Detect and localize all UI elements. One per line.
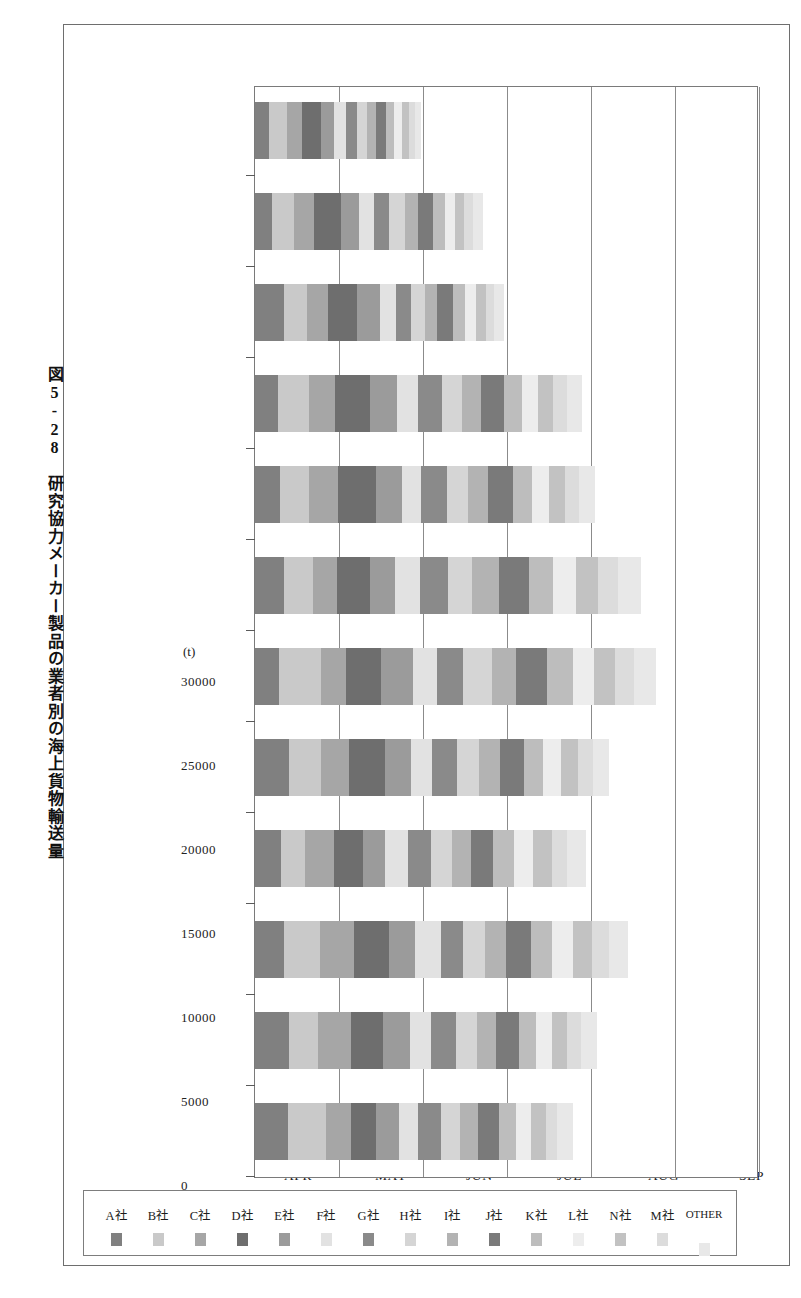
bar-segment-L社[interactable] <box>514 830 533 886</box>
legend-item-G社[interactable]: G社 <box>348 1200 388 1247</box>
bar-segment-D社[interactable] <box>354 921 389 977</box>
bar-segment-B社[interactable] <box>284 284 308 340</box>
bar-segment-M社[interactable] <box>464 193 472 249</box>
bar-segment-A社[interactable] <box>255 375 278 431</box>
bar-segment-H社[interactable] <box>447 466 469 522</box>
bar-segment-E社[interactable] <box>357 284 380 340</box>
bar-segment-B社[interactable] <box>269 102 287 158</box>
bar-segment-K社[interactable] <box>499 1103 516 1159</box>
bar-segment-E社[interactable] <box>321 102 334 158</box>
bar-segment-K社[interactable] <box>386 102 394 158</box>
bar-nov[interactable] <box>255 466 595 522</box>
bar-segment-M社[interactable] <box>592 921 609 977</box>
bar-segment-B社[interactable] <box>281 830 305 886</box>
bar-segment-F社[interactable] <box>395 557 420 613</box>
bar-segment-G社[interactable] <box>418 375 442 431</box>
bar-segment-J社[interactable] <box>499 557 529 613</box>
bar-segment-J社[interactable] <box>437 284 453 340</box>
bar-segment-M社[interactable] <box>546 1103 558 1159</box>
bar-segment-J社[interactable] <box>488 466 513 522</box>
legend-item-F社[interactable]: F社 <box>306 1200 346 1247</box>
bar-segment-C社[interactable] <box>320 921 354 977</box>
bar-segment-F社[interactable] <box>415 921 441 977</box>
bar-dec[interactable] <box>255 375 582 431</box>
bar-segment-M社[interactable] <box>553 375 566 431</box>
bar-segment-A社[interactable] <box>255 557 284 613</box>
bar-segment-C社[interactable] <box>287 102 302 158</box>
bar-segment-J社[interactable] <box>481 375 504 431</box>
bar-segment-C社[interactable] <box>307 284 328 340</box>
bar-segment-I社[interactable] <box>462 375 480 431</box>
bar-segment-M社[interactable] <box>567 1012 580 1068</box>
bar-segment-C社[interactable] <box>326 1103 350 1159</box>
bar-segment-A社[interactable] <box>255 830 281 886</box>
bar-segment-F社[interactable] <box>411 739 432 795</box>
bar-segment-N社[interactable] <box>576 557 598 613</box>
bar-segment-OTHER[interactable] <box>494 284 504 340</box>
bar-segment-K社[interactable] <box>513 466 532 522</box>
bar-segment-E社[interactable] <box>370 375 397 431</box>
bar-segment-I社[interactable] <box>367 102 376 158</box>
bar-segment-H社[interactable] <box>357 102 367 158</box>
bar-segment-J社[interactable] <box>376 102 386 158</box>
bar-segment-A社[interactable] <box>255 739 289 795</box>
legend-item-I社[interactable]: I社 <box>432 1200 472 1247</box>
bar-segment-I社[interactable] <box>405 193 418 249</box>
bar-segment-N社[interactable] <box>549 466 565 522</box>
bar-jul[interactable] <box>255 830 586 886</box>
bar-segment-D社[interactable] <box>302 102 320 158</box>
bar-segment-C社[interactable] <box>309 375 335 431</box>
bar-segment-F社[interactable] <box>413 648 437 704</box>
legend-item-N社[interactable]: N社 <box>600 1200 640 1247</box>
bar-sep[interactable] <box>255 648 656 704</box>
bar-segment-G社[interactable] <box>346 102 357 158</box>
bar-segment-H社[interactable] <box>463 921 485 977</box>
bar-segment-M社[interactable] <box>486 284 494 340</box>
bar-segment-N社[interactable] <box>573 921 592 977</box>
bar-segment-J社[interactable] <box>516 648 547 704</box>
legend-item-L社[interactable]: L社 <box>558 1200 598 1247</box>
bar-segment-L社[interactable] <box>532 466 549 522</box>
legend-item-E社[interactable]: E社 <box>264 1200 304 1247</box>
bar-segment-C社[interactable] <box>309 466 338 522</box>
bar-segment-N社[interactable] <box>476 284 486 340</box>
bar-segment-E社[interactable] <box>383 1012 411 1068</box>
bar-segment-I社[interactable] <box>492 648 516 704</box>
bar-segment-K社[interactable] <box>531 921 553 977</box>
bar-segment-OTHER[interactable] <box>567 830 585 886</box>
bar-segment-B社[interactable] <box>279 648 320 704</box>
bar-apr[interactable] <box>255 1103 573 1159</box>
bar-segment-OTHER[interactable] <box>415 102 422 158</box>
bar-segment-D社[interactable] <box>337 557 370 613</box>
legend-item-K社[interactable]: K社 <box>516 1200 556 1247</box>
bar-segment-L社[interactable] <box>536 1012 552 1068</box>
bar-segment-K社[interactable] <box>453 284 465 340</box>
bar-segment-E社[interactable] <box>376 466 402 522</box>
bar-aug[interactable] <box>255 739 609 795</box>
bar-segment-C社[interactable] <box>321 648 346 704</box>
bar-segment-J社[interactable] <box>471 830 493 886</box>
bar-segment-E社[interactable] <box>370 557 395 613</box>
legend-item-D社[interactable]: D社 <box>222 1200 262 1247</box>
bar-segment-E社[interactable] <box>376 1103 400 1159</box>
bar-segment-G社[interactable] <box>431 1012 456 1068</box>
bar-segment-D社[interactable] <box>335 375 370 431</box>
bar-segment-B社[interactable] <box>289 1012 318 1068</box>
bar-jun[interactable] <box>255 921 628 977</box>
bar-segment-F社[interactable] <box>410 1012 430 1068</box>
bar-segment-OTHER[interactable] <box>567 375 582 431</box>
bar-segment-E社[interactable] <box>381 648 413 704</box>
bar-segment-H社[interactable] <box>463 648 492 704</box>
bar-segment-H社[interactable] <box>411 284 424 340</box>
bar-segment-OTHER[interactable] <box>593 739 610 795</box>
bar-segment-OTHER[interactable] <box>609 921 628 977</box>
bar-segment-L社[interactable] <box>543 739 561 795</box>
bar-segment-G社[interactable] <box>374 193 388 249</box>
bar-segment-C社[interactable] <box>318 1012 351 1068</box>
bar-segment-OTHER[interactable] <box>634 648 656 704</box>
bar-segment-I社[interactable] <box>460 1103 478 1159</box>
bar-segment-D社[interactable] <box>351 1103 376 1159</box>
bar-segment-L社[interactable] <box>445 193 455 249</box>
bar-segment-A社[interactable] <box>255 466 280 522</box>
bar-segment-J社[interactable] <box>496 1012 519 1068</box>
